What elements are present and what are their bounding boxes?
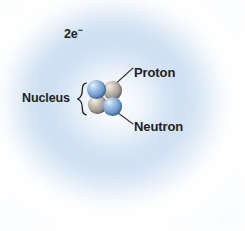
proton-sphere-top-left	[87, 80, 106, 99]
atom-diagram: 2e− Nucleus Proton Neutron	[0, 0, 245, 231]
neutron-label: Neutron	[134, 120, 183, 133]
proton-sphere-bottom-right	[103, 97, 122, 116]
nucleus	[87, 80, 123, 118]
electron-count-text: 2e	[64, 27, 78, 41]
electron-count-label: 2e−	[64, 26, 83, 41]
electron-charge-superscript: −	[78, 25, 83, 35]
nucleus-label: Nucleus	[22, 92, 70, 105]
proton-label: Proton	[134, 66, 175, 79]
